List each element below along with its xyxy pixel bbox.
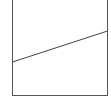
diagonal-line	[13, 31, 108, 62]
diagram-canvas	[0, 0, 111, 108]
